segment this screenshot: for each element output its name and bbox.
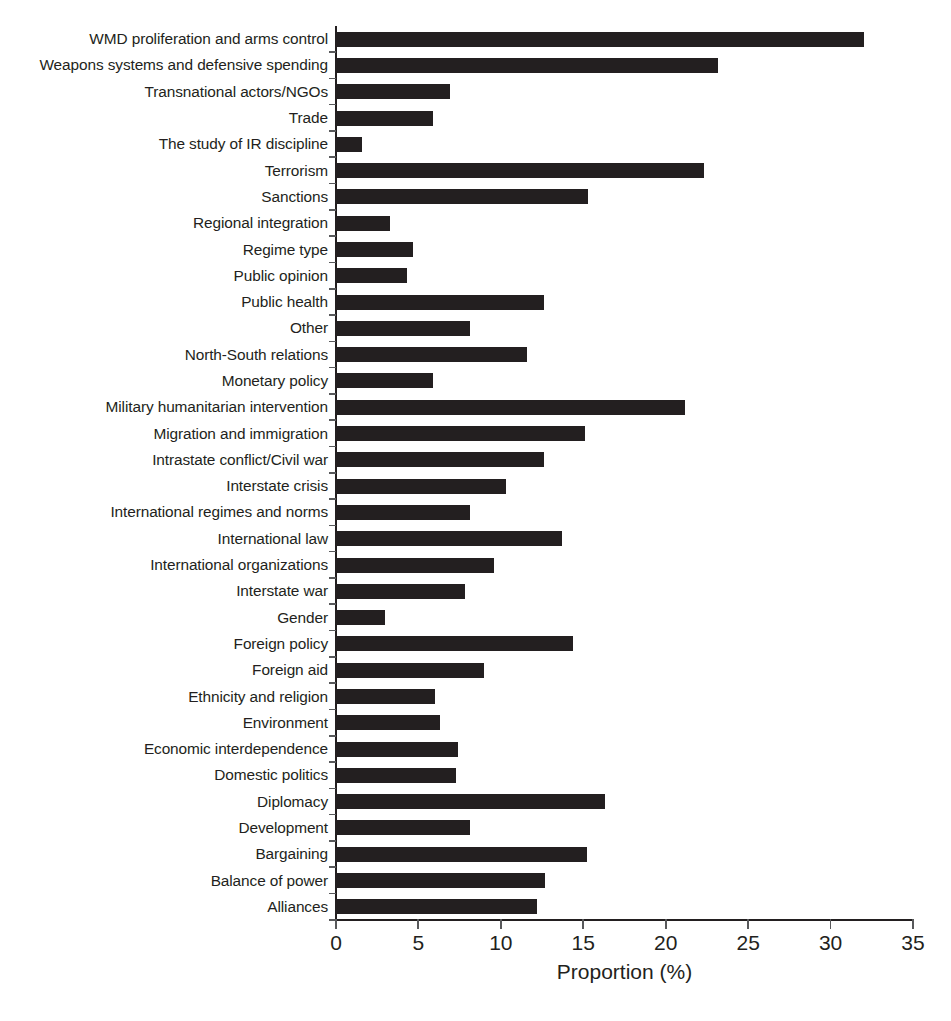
- y-axis-tick: [329, 288, 336, 290]
- bar-row: [336, 841, 913, 867]
- bar-row: [336, 604, 913, 630]
- category-label: Alliances: [0, 899, 328, 915]
- bar-chart: WMD proliferation and arms controlWeapon…: [0, 0, 951, 1021]
- plot-area: [336, 26, 913, 920]
- bar: [336, 347, 527, 362]
- x-axis-tick-label: 10: [471, 931, 531, 955]
- category-label: North-South relations: [0, 347, 328, 363]
- x-axis-tick: [747, 919, 749, 929]
- bar-row: [336, 105, 913, 131]
- bar: [336, 242, 413, 257]
- y-axis-tick: [329, 603, 336, 605]
- y-axis-tick: [329, 78, 336, 80]
- category-label: The study of IR discipline: [0, 136, 328, 152]
- category-label: Other: [0, 320, 328, 336]
- category-label: Gender: [0, 610, 328, 626]
- bar-row: [336, 499, 913, 525]
- bar: [336, 873, 545, 888]
- category-label: Domestic politics: [0, 767, 328, 783]
- y-axis-tick: [329, 235, 336, 237]
- x-axis-tick-label: 0: [306, 931, 366, 955]
- category-label: Ethnicity and religion: [0, 689, 328, 705]
- category-label: International organizations: [0, 557, 328, 573]
- y-axis-tick: [329, 551, 336, 553]
- y-axis-tick: [329, 104, 336, 106]
- x-axis-title: Proportion (%): [336, 959, 913, 985]
- y-axis-tick: [329, 630, 336, 632]
- bar: [336, 137, 362, 152]
- bar-row: [336, 420, 913, 446]
- bar-row: [336, 526, 913, 552]
- y-axis-tick: [329, 866, 336, 868]
- bar-row: [336, 894, 913, 920]
- x-axis-tick-label: 20: [636, 931, 696, 955]
- y-axis-tick: [329, 682, 336, 684]
- bar: [336, 84, 450, 99]
- bar: [336, 531, 562, 546]
- bar-row: [336, 789, 913, 815]
- bar: [336, 189, 588, 204]
- bar: [336, 58, 718, 73]
- category-label: Interstate war: [0, 583, 328, 599]
- bar-row: [336, 368, 913, 394]
- bar: [336, 768, 456, 783]
- bar-row: [336, 552, 913, 578]
- bar-row: [336, 815, 913, 841]
- bar-row: [336, 315, 913, 341]
- bar-row: [336, 263, 913, 289]
- bar: [336, 742, 458, 757]
- y-axis-tick: [329, 209, 336, 211]
- y-axis-tick: [329, 262, 336, 264]
- category-label: International regimes and norms: [0, 504, 328, 520]
- bar-row: [336, 736, 913, 762]
- bar: [336, 794, 605, 809]
- bar: [336, 847, 587, 862]
- category-label: Public health: [0, 294, 328, 310]
- bar-row: [336, 26, 913, 52]
- y-axis-tick: [329, 709, 336, 711]
- bar: [336, 268, 407, 283]
- category-label: Intrastate conflict/Civil war: [0, 452, 328, 468]
- bar-row: [336, 473, 913, 499]
- bar: [336, 321, 470, 336]
- bar: [336, 663, 484, 678]
- x-axis-tick: [830, 919, 832, 929]
- category-label: Interstate crisis: [0, 478, 328, 494]
- y-axis-tick: [329, 577, 336, 579]
- y-axis-tick: [329, 393, 336, 395]
- y-axis-tick: [329, 840, 336, 842]
- category-label: Bargaining: [0, 846, 328, 862]
- category-label: Military humanitarian intervention: [0, 399, 328, 415]
- bar-row: [336, 867, 913, 893]
- category-label: Transnational actors/NGOs: [0, 84, 328, 100]
- bar: [336, 452, 544, 467]
- bar: [336, 715, 440, 730]
- y-axis-tick: [329, 498, 336, 500]
- y-axis-tick: [329, 156, 336, 158]
- category-label: Development: [0, 820, 328, 836]
- bar-row: [336, 447, 913, 473]
- bar: [336, 32, 864, 47]
- bar-row: [336, 184, 913, 210]
- bar-row: [336, 236, 913, 262]
- category-label: Regime type: [0, 242, 328, 258]
- bar-row: [336, 210, 913, 236]
- category-label: Terrorism: [0, 163, 328, 179]
- bar-row: [336, 683, 913, 709]
- bar-row: [336, 631, 913, 657]
- bar: [336, 163, 704, 178]
- bar: [336, 636, 573, 651]
- bar-row: [336, 394, 913, 420]
- category-label: Weapons systems and defensive spending: [0, 57, 328, 73]
- bar-row: [336, 342, 913, 368]
- category-label: Public opinion: [0, 268, 328, 284]
- bar: [336, 111, 433, 126]
- y-axis-tick: [329, 788, 336, 790]
- bar-row: [336, 657, 913, 683]
- y-axis-tick: [329, 130, 336, 132]
- y-axis-tick: [329, 472, 336, 474]
- y-axis-tick: [329, 183, 336, 185]
- category-label: Sanctions: [0, 189, 328, 205]
- bar: [336, 505, 470, 520]
- y-axis-tick: [329, 761, 336, 763]
